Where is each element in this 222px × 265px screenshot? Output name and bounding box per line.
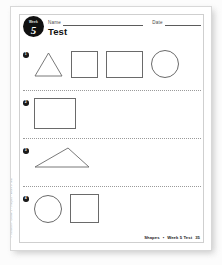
worksheet-canvas: Week 5 Name Date Test 1 xyxy=(0,0,222,265)
problem-number: 1 xyxy=(23,52,29,58)
problem-row: 2 xyxy=(23,95,201,138)
rectangle-shape[interactable] xyxy=(106,51,143,78)
rectangle-shape[interactable] xyxy=(34,98,76,129)
problem-list: 1 2 xyxy=(23,47,201,234)
problem-number: 4 xyxy=(23,196,29,202)
square-shape[interactable] xyxy=(71,51,98,78)
shape-group xyxy=(23,50,201,78)
footer-separator: • xyxy=(163,235,165,240)
circle-shape[interactable] xyxy=(151,50,179,78)
worksheet-page: Week 5 Name Date Test 1 xyxy=(10,6,212,251)
name-date-row: Name Date xyxy=(48,17,201,26)
problem-number: 2 xyxy=(23,100,29,106)
row-divider xyxy=(23,90,201,91)
week-badge: Week 5 xyxy=(23,16,44,37)
row-divider xyxy=(23,186,201,187)
page-title: Test xyxy=(48,26,67,37)
page-footer: Shapes • Week 5 Test 35 xyxy=(144,235,200,240)
name-input-line[interactable] xyxy=(63,19,143,26)
week-badge-number: 5 xyxy=(23,25,44,35)
row-divider xyxy=(23,138,201,139)
triangle-shape[interactable] xyxy=(34,52,63,77)
problem-row: 1 xyxy=(23,47,201,90)
circle-shape[interactable] xyxy=(34,195,62,223)
page-header: Week 5 Name Date Test xyxy=(23,15,201,45)
problem-number: 3 xyxy=(23,148,29,154)
scalene-triangle-shape[interactable] xyxy=(34,146,90,172)
copyright-text: © Harcourt • Grade 1 • Shapes • Week 5 T… xyxy=(10,178,13,238)
shape-group xyxy=(23,98,201,129)
date-input-line[interactable] xyxy=(165,19,201,26)
problem-row: 3 xyxy=(23,143,201,186)
square-shape[interactable] xyxy=(70,194,99,223)
problem-row: 4 xyxy=(23,191,201,234)
footer-subject: Shapes xyxy=(144,235,160,240)
date-label: Date xyxy=(152,20,165,26)
footer-page-number: 35 xyxy=(195,235,200,240)
shape-group xyxy=(23,194,201,223)
footer-assessment: Week 5 Test xyxy=(167,235,192,240)
shape-group xyxy=(23,146,201,172)
